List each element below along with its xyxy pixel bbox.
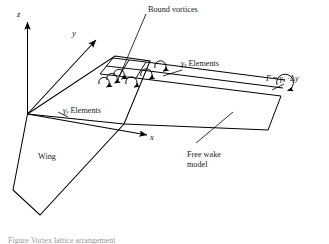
gamma-y-elements-word: Elements (71, 106, 101, 115)
label-wing: Wing (38, 152, 56, 161)
y-axis (28, 40, 97, 114)
axis-label-y: y (72, 29, 76, 39)
leader-lines (58, 14, 284, 143)
free-wake-line-2: model (187, 160, 221, 170)
label-gamma-x-elements: γx Elements (181, 59, 219, 69)
figure-caption-clipped: Figure Vortex lattice arrangement (8, 236, 308, 244)
circulation-equation: Γ = γx ·Δy (266, 74, 299, 84)
gamma-capital-symbol: Γ (266, 74, 271, 83)
gamma-x-elements-word: Elements (189, 59, 219, 68)
circulation-arc-d (126, 77, 137, 88)
wake-sheet-filaments (124, 62, 285, 130)
label-gamma-y-elements: γy Elements (63, 106, 101, 116)
wake-edge-closing (268, 96, 281, 130)
diagram-vector-layer (0, 0, 329, 244)
wing-planform (13, 56, 150, 215)
wake-filament-mid (141, 70, 283, 88)
wing-outline (13, 56, 150, 215)
axis-label-z: z (17, 10, 20, 20)
delta-variable: y (295, 74, 299, 83)
coordinate-axes (28, 22, 148, 135)
wake-filament-lower (136, 78, 281, 96)
label-bound-vortices: Bound vortices (148, 5, 198, 14)
wake-filament-bottom (124, 124, 268, 130)
circulation-arc-f (155, 61, 166, 72)
caption-text: Figure Vortex lattice arrangement (8, 236, 308, 244)
gamma-equation-subscript: x (283, 77, 285, 83)
gamma-x-subscript: x (184, 62, 186, 68)
equals-sign: = (273, 74, 278, 83)
lattice-span-line-1 (100, 58, 113, 74)
gamma-y-subscript: y (66, 109, 68, 115)
figure-container: Bound vortices z y x γx Elements γy Elem… (0, 0, 329, 244)
axis-label-x: x (150, 133, 154, 143)
circulation-arc-a (99, 77, 109, 87)
label-free-wake-model: Free wake model (187, 150, 221, 171)
free-wake-line-1: Free wake (187, 150, 221, 160)
